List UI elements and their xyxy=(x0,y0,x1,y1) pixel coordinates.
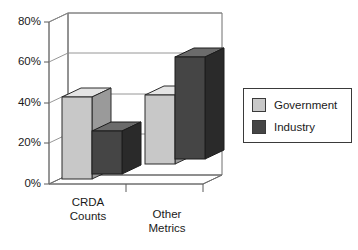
x-axis-category-labels: CRDA Counts Other Metrics xyxy=(70,196,186,234)
category-label-crda-line1: CRDA xyxy=(72,196,105,208)
legend-label-government: Government xyxy=(274,99,338,111)
y-tick-label-0: 0% xyxy=(24,177,41,189)
category-label-other-line1: Other xyxy=(153,208,182,220)
legend-swatch-industry xyxy=(253,121,266,134)
bar-industry-other-metrics[interactable] xyxy=(175,48,224,159)
y-axis-tick-labels: 80% 60% 40% 20% 0% xyxy=(18,15,41,189)
y-tick-label-20: 20% xyxy=(18,136,41,148)
y-tick-label-40: 40% xyxy=(18,96,41,108)
bar-industry-crda-counts[interactable] xyxy=(92,122,141,174)
legend-swatch-government xyxy=(253,99,266,112)
y-tick-label-60: 60% xyxy=(18,55,41,67)
category-label-crda-line2: Counts xyxy=(70,210,107,222)
bar-chart-svg: 80% 60% 40% 20% 0% xyxy=(0,0,358,250)
legend-entry-industry[interactable]: Industry xyxy=(253,121,316,134)
legend-border xyxy=(244,89,352,143)
legend-entry-government[interactable]: Government xyxy=(253,99,339,112)
category-label-other-line2: Metrics xyxy=(148,222,185,234)
chart-container: 80% 60% 40% 20% 0% xyxy=(0,0,358,250)
y-axis xyxy=(44,22,49,184)
y-tick-label-80: 80% xyxy=(18,15,41,27)
chart-legend: Government Industry xyxy=(244,89,352,143)
legend-label-industry: Industry xyxy=(274,121,315,133)
x-axis-ticks xyxy=(126,184,203,192)
